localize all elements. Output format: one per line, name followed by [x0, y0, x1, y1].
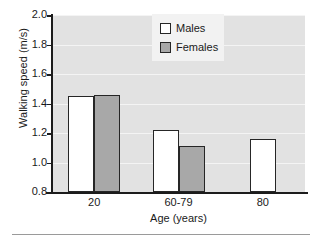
y-tick-label: 1.0: [14, 157, 47, 168]
y-tick-mark: [47, 45, 51, 47]
footer-divider: [12, 234, 310, 235]
y-tick-label: 0.8: [14, 186, 47, 197]
y-tick-label: 2.0: [14, 9, 47, 20]
legend-swatch-males-icon: [160, 23, 171, 34]
x-axis-title: Age (years): [52, 212, 305, 224]
y-tick-mark: [47, 74, 51, 76]
y-tick-mark: [47, 133, 51, 135]
walking-speed-bar-chart: Walking speed (m/s) 2.01.81.61.41.21.00.…: [0, 0, 322, 242]
x-tick-label: 20: [59, 196, 129, 208]
bar-males-20: [68, 96, 94, 192]
y-tick-mark: [47, 163, 51, 165]
legend-item-females: Females: [160, 40, 218, 54]
bar-males-80: [250, 139, 276, 192]
legend-swatch-females-icon: [160, 42, 171, 53]
y-tick-mark: [47, 15, 51, 17]
bar-females-20: [94, 95, 120, 192]
gridline: [52, 74, 305, 75]
x-tick-label: 80: [228, 196, 298, 208]
y-tick-label: 1.6: [14, 68, 47, 79]
y-tick-label: 1.4: [14, 98, 47, 109]
y-tick-mark: [47, 104, 51, 106]
y-tick-mark: [47, 192, 51, 194]
y-tick-label: 1.8: [14, 39, 47, 50]
y-tick-label: 1.2: [14, 127, 47, 138]
x-tick-label: 60-79: [144, 196, 214, 208]
chart-legend: Males Females: [152, 14, 224, 61]
y-axis-tick-labels: 2.01.81.61.41.21.00.8: [14, 9, 47, 197]
legend-label-females: Females: [176, 42, 218, 53]
legend-item-males: Males: [160, 21, 205, 35]
x-axis-line: [46, 192, 308, 194]
bar-females-60-79: [179, 146, 205, 192]
legend-label-males: Males: [176, 23, 205, 34]
bar-males-60-79: [153, 130, 179, 192]
y-axis-line: [51, 14, 53, 193]
